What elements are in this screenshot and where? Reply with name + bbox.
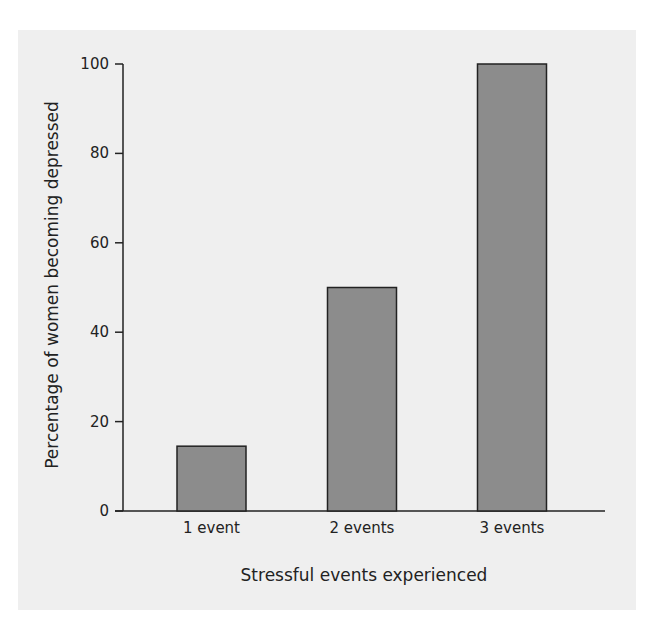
bar-chart: 020406080100 1 event2 events3 eventsStre… bbox=[0, 0, 668, 638]
y-tick-label: 80 bbox=[90, 144, 109, 162]
bars bbox=[177, 64, 547, 511]
x-category-label: 2 events bbox=[330, 519, 395, 537]
x-axis-title: Stressful events experienced bbox=[241, 565, 488, 585]
y-tick-label: 100 bbox=[80, 55, 109, 73]
y-axis-title: Percentage of women becoming depressed bbox=[42, 101, 62, 469]
y-tick-label: 20 bbox=[90, 413, 109, 431]
bar-2 bbox=[328, 288, 397, 512]
labels: 1 event2 events3 eventsStressful events … bbox=[42, 101, 545, 585]
bar-3 bbox=[478, 64, 547, 511]
x-category-label: 3 events bbox=[480, 519, 545, 537]
y-tick-label: 0 bbox=[99, 502, 109, 520]
x-category-label: 1 event bbox=[183, 519, 240, 537]
y-tick-label: 60 bbox=[90, 234, 109, 252]
y-tick-label: 40 bbox=[90, 323, 109, 341]
bar-1 bbox=[177, 446, 246, 511]
